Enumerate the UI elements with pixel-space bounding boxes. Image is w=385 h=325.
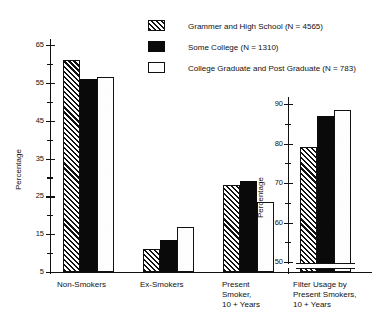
main-y-tick-label: 55 xyxy=(18,79,44,87)
main-y-tick-minor xyxy=(47,64,53,65)
legend-item-some-college: Some College (N = 1310) xyxy=(148,41,378,54)
main-y-tick-major xyxy=(46,272,55,273)
bar-solid-group-0 xyxy=(80,79,97,272)
legend-label-grammer-high-school: Grammer and High School (N = 4565) xyxy=(188,22,323,31)
bar-hatch-group-2 xyxy=(223,185,240,272)
main-y-axis-line xyxy=(50,39,51,274)
inset-bar-dots xyxy=(334,110,351,272)
inset-y-tick-major xyxy=(284,262,293,263)
main-y-axis-title: Percentage xyxy=(14,149,23,190)
legend-item-college-graduate: College Graduate and Post Graduate (N = … xyxy=(148,62,378,75)
legend-swatch-solid xyxy=(148,41,165,52)
inset-y-axis-line xyxy=(288,97,289,264)
main-x-axis-line xyxy=(50,272,372,273)
bar-hatch-group-0 xyxy=(63,60,80,272)
inset-y-tick-label: 90 xyxy=(258,100,283,108)
inset-y-tick-label: 60 xyxy=(258,219,283,227)
inset-bar-hatch xyxy=(300,147,317,272)
bar-solid-group-1 xyxy=(160,240,177,272)
category-label-main-2: Present Smoker, 10 + Years xyxy=(222,280,260,310)
main-y-tick-label: 15 xyxy=(18,230,44,238)
bar-dots-group-0 xyxy=(97,77,114,272)
bar-solid-group-2 xyxy=(240,181,257,272)
main-y-tick-major xyxy=(46,196,55,197)
main-y-tick-major xyxy=(46,121,55,122)
main-y-tick-minor xyxy=(47,177,53,178)
main-y-tick-label: 65 xyxy=(18,41,44,49)
inset-y-tick-minor xyxy=(285,203,291,204)
inset-y-tick-minor xyxy=(285,163,291,164)
main-y-tick-minor xyxy=(47,102,53,103)
main-y-tick-minor xyxy=(47,253,53,254)
main-y-tick-minor xyxy=(47,140,53,141)
inset-y-tick-major xyxy=(284,183,293,184)
legend-item-grammer-high-school: Grammer and High School (N = 4565) xyxy=(148,20,378,33)
legend-label-college-graduate: College Graduate and Post Graduate (N = … xyxy=(188,64,356,73)
main-y-tick-label: 45 xyxy=(18,117,44,125)
main-y-tick-label: 25 xyxy=(18,192,44,200)
main-y-tick-major xyxy=(46,234,55,235)
figure-root: 5152535455565PercentageNon-SmokersEx-Smo… xyxy=(0,0,385,325)
inset-y-tick-major xyxy=(284,223,293,224)
inset-y-axis-title: Percentage xyxy=(256,177,265,218)
main-y-tick-major xyxy=(46,159,55,160)
inset-axis-break-line-bottom xyxy=(296,268,355,269)
inset-y-tick-label: 50 xyxy=(258,258,283,266)
legend-label-some-college: Some College (N = 1310) xyxy=(188,43,279,52)
bar-hatch-group-1 xyxy=(143,249,160,272)
inset-y-tick-minor xyxy=(285,124,291,125)
legend: Grammer and High School (N = 4565)Some C… xyxy=(148,20,378,80)
inset-y-axis-stub xyxy=(288,268,289,274)
inset-y-tick-label: 80 xyxy=(258,140,283,148)
main-y-tick-minor xyxy=(47,215,53,216)
inset-y-tick-major xyxy=(284,144,293,145)
inset-y-tick-minor xyxy=(285,242,291,243)
inset-axis-break-line-top xyxy=(296,263,355,264)
inset-y-tick-major xyxy=(284,104,293,105)
legend-swatch-hatch xyxy=(148,20,165,31)
main-y-tick-label: 5 xyxy=(18,268,44,276)
bar-dots-group-1 xyxy=(177,227,194,272)
category-label-inset-0: Filter Usage by Present Smokers, 10 + Ye… xyxy=(293,280,357,310)
category-label-main-1: Ex-Smokers xyxy=(140,280,184,290)
legend-swatch-dots xyxy=(148,62,165,73)
inset-bar-solid xyxy=(317,116,334,272)
main-y-tick-major xyxy=(46,45,55,46)
main-y-tick-major xyxy=(46,83,55,84)
category-label-main-0: Non-Smokers xyxy=(57,280,106,290)
